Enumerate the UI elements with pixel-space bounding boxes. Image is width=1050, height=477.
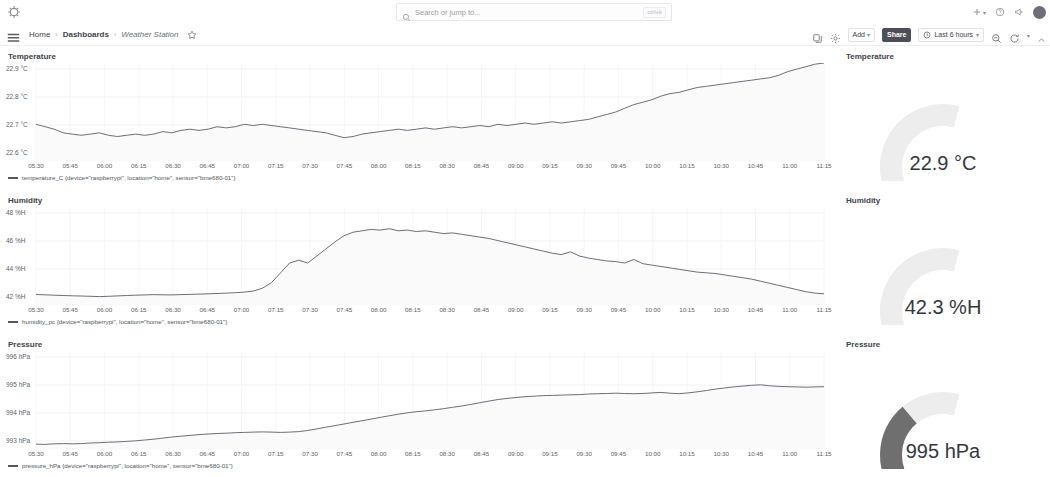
gauge-title-pressure: Pressure (846, 340, 1048, 349)
x-axis-tick-label: 05:30 (28, 306, 43, 313)
x-axis-tick-label: 08:00 (371, 450, 386, 457)
x-axis-tick-label: 07:15 (268, 162, 283, 169)
legend-pressure[interactable]: pressure_hPa {device="raspberrypi", loca… (8, 462, 832, 469)
add-panel-button[interactable]: Add ▾ (848, 28, 875, 42)
y-axis-tick-label: 22.7 °C (6, 121, 28, 128)
new-menu-button[interactable]: ▾ (972, 7, 986, 17)
share-button[interactable]: Share (882, 28, 911, 42)
y-axis-tick-label: 994 hPa (6, 409, 30, 416)
y-axis-tick-label: 44 %H (6, 265, 26, 272)
zoom-out-icon[interactable] (991, 30, 1002, 41)
x-axis-tick-label: 09:15 (542, 162, 557, 169)
gauge-humidity[interactable]: 42.3 %H (838, 207, 1048, 325)
legend-humidity[interactable]: humidity_pc {device="raspberrypi", locat… (8, 318, 832, 325)
breadcrumb: Home › Dashboards › Weather Station (29, 30, 197, 40)
y-axis-tick-label: 48 %H (6, 209, 26, 216)
breadcrumb-item-dashboards[interactable]: Dashboards (63, 30, 109, 39)
xaxis-humidity: 05:3005:4506:0006:1506:3006:4507:0007:15… (0, 305, 832, 316)
legend-temperature[interactable]: temperature_C {device="raspberrypi", loc… (8, 174, 832, 181)
plot-temperature[interactable]: 22.9 °C22.8 °C22.7 °C22.6 °C (0, 63, 832, 161)
clock-icon (923, 31, 931, 39)
share-label: Share (887, 30, 906, 40)
x-axis-tick-label: 08:45 (474, 162, 489, 169)
y-axis-tick-label: 22.6 °C (6, 149, 28, 156)
hamburger-menu-icon[interactable] (7, 29, 20, 40)
x-axis-tick-label: 07:45 (337, 306, 352, 313)
y-axis-tick-label: 996 hPa (6, 353, 30, 360)
x-axis-tick-label: 10:30 (713, 306, 728, 313)
x-axis-tick-label: 06:00 (97, 306, 112, 313)
x-axis-tick-label: 10:30 (713, 162, 728, 169)
breadcrumb-item-weather-station[interactable]: Weather Station (121, 30, 178, 39)
time-range-picker[interactable]: Last 6 hours ▾ (918, 28, 984, 42)
x-axis-tick-label: 10:00 (645, 306, 660, 313)
y-axis-tick-label: 22.8 °C (6, 93, 28, 100)
legend-label: temperature_C {device="raspberrypi", loc… (22, 174, 236, 181)
dashboard-settings-gear-icon[interactable] (830, 30, 841, 41)
search-icon (402, 8, 411, 17)
legend-label: humidity_pc {device="raspberrypi", locat… (22, 318, 227, 325)
x-axis-tick-label: 09:45 (611, 306, 626, 313)
x-axis-tick-label: 08:45 (474, 450, 489, 457)
dashboard-toolbar: Add ▾ Share Last 6 hours ▾ ▾ (812, 24, 1046, 46)
x-axis-tick-label: 07:00 (234, 306, 249, 313)
x-axis-tick-label: 06:15 (131, 162, 146, 169)
news-menu-button[interactable] (1014, 7, 1024, 17)
x-axis-tick-label: 09:30 (576, 450, 591, 457)
x-axis-tick-label: 08:30 (439, 306, 454, 313)
x-axis-tick-label: 10:00 (645, 162, 660, 169)
y-axis-tick-label: 46 %H (6, 237, 26, 244)
megaphone-icon (1014, 7, 1024, 17)
panel-title-temperature: Temperature (8, 52, 832, 61)
x-axis-tick-label: 08:45 (474, 306, 489, 313)
breadcrumb-bar: Home › Dashboards › Weather Station Add … (0, 24, 1050, 46)
x-axis-tick-label: 09:15 (542, 306, 557, 313)
chevron-down-icon: ▾ (976, 30, 979, 40)
chevron-up-icon[interactable] (1037, 31, 1046, 40)
x-axis-tick-label: 10:30 (713, 450, 728, 457)
xaxis-temperature: 05:3005:4506:0006:1506:3006:4507:0007:15… (0, 161, 832, 172)
top-navigation-bar: Search or jump to... ctrl+k ▾ (0, 0, 1050, 24)
x-axis-tick-label: 11:15 (816, 162, 831, 169)
plot-pressure[interactable]: 996 hPa995 hPa994 hPa993 hPa (0, 351, 832, 449)
x-axis-tick-label: 07:00 (234, 162, 249, 169)
x-axis-tick-label: 10:15 (679, 162, 694, 169)
legend-color-swatch (8, 321, 18, 323)
dashboard-body: Temperature 22.9 °C22.8 °C22.7 °C22.6 °C… (0, 46, 1050, 477)
x-axis-tick-label: 09:00 (508, 306, 523, 313)
gauge-value-humidity: 42.3 %H (838, 296, 1048, 319)
avatar[interactable] (1033, 6, 1046, 19)
panel-copy-icon[interactable] (812, 30, 823, 41)
y-axis-tick-label: 993 hPa (6, 437, 30, 444)
x-axis-tick-label: 05:45 (63, 450, 78, 457)
xaxis-pressure: 05:3005:4506:0006:1506:3006:4507:0007:15… (0, 449, 832, 460)
help-circle-icon (995, 7, 1005, 17)
breadcrumb-item-home[interactable]: Home (29, 30, 50, 39)
x-axis-tick-label: 11:15 (816, 450, 831, 457)
gauge-temperature[interactable]: 22.9 °C (838, 63, 1048, 181)
panel-pressure: Pressure 996 hPa995 hPa994 hPa993 hPa 05… (0, 340, 832, 469)
x-axis-tick-label: 07:00 (234, 450, 249, 457)
refresh-interval-caret[interactable]: ▾ (1027, 32, 1030, 39)
refresh-icon[interactable] (1009, 30, 1020, 41)
x-axis-tick-label: 09:30 (576, 162, 591, 169)
x-axis-tick-label: 11:00 (782, 450, 797, 457)
x-axis-tick-label: 10:45 (748, 162, 763, 169)
x-axis-tick-label: 07:15 (268, 450, 283, 457)
search-input[interactable]: Search or jump to... ctrl+k (396, 3, 672, 21)
x-axis-tick-label: 08:00 (371, 306, 386, 313)
gauge-pressure[interactable]: 995 hPa (838, 351, 1048, 469)
x-axis-tick-label: 08:30 (439, 450, 454, 457)
star-outline-icon[interactable] (187, 30, 197, 40)
help-menu-button[interactable] (995, 7, 1005, 17)
x-axis-tick-label: 07:30 (302, 306, 317, 313)
x-axis-tick-label: 07:45 (337, 450, 352, 457)
x-axis-tick-label: 09:30 (576, 306, 591, 313)
x-axis-tick-label: 08:30 (439, 162, 454, 169)
y-axis-tick-label: 42 %H (6, 293, 26, 300)
chevron-down-icon: ▾ (867, 30, 870, 40)
top-nav-actions: ▾ (972, 0, 1046, 24)
x-axis-tick-label: 06:45 (200, 306, 215, 313)
grafana-logo-icon[interactable] (7, 5, 21, 19)
plot-humidity[interactable]: 48 %H46 %H44 %H42 %H (0, 207, 832, 305)
